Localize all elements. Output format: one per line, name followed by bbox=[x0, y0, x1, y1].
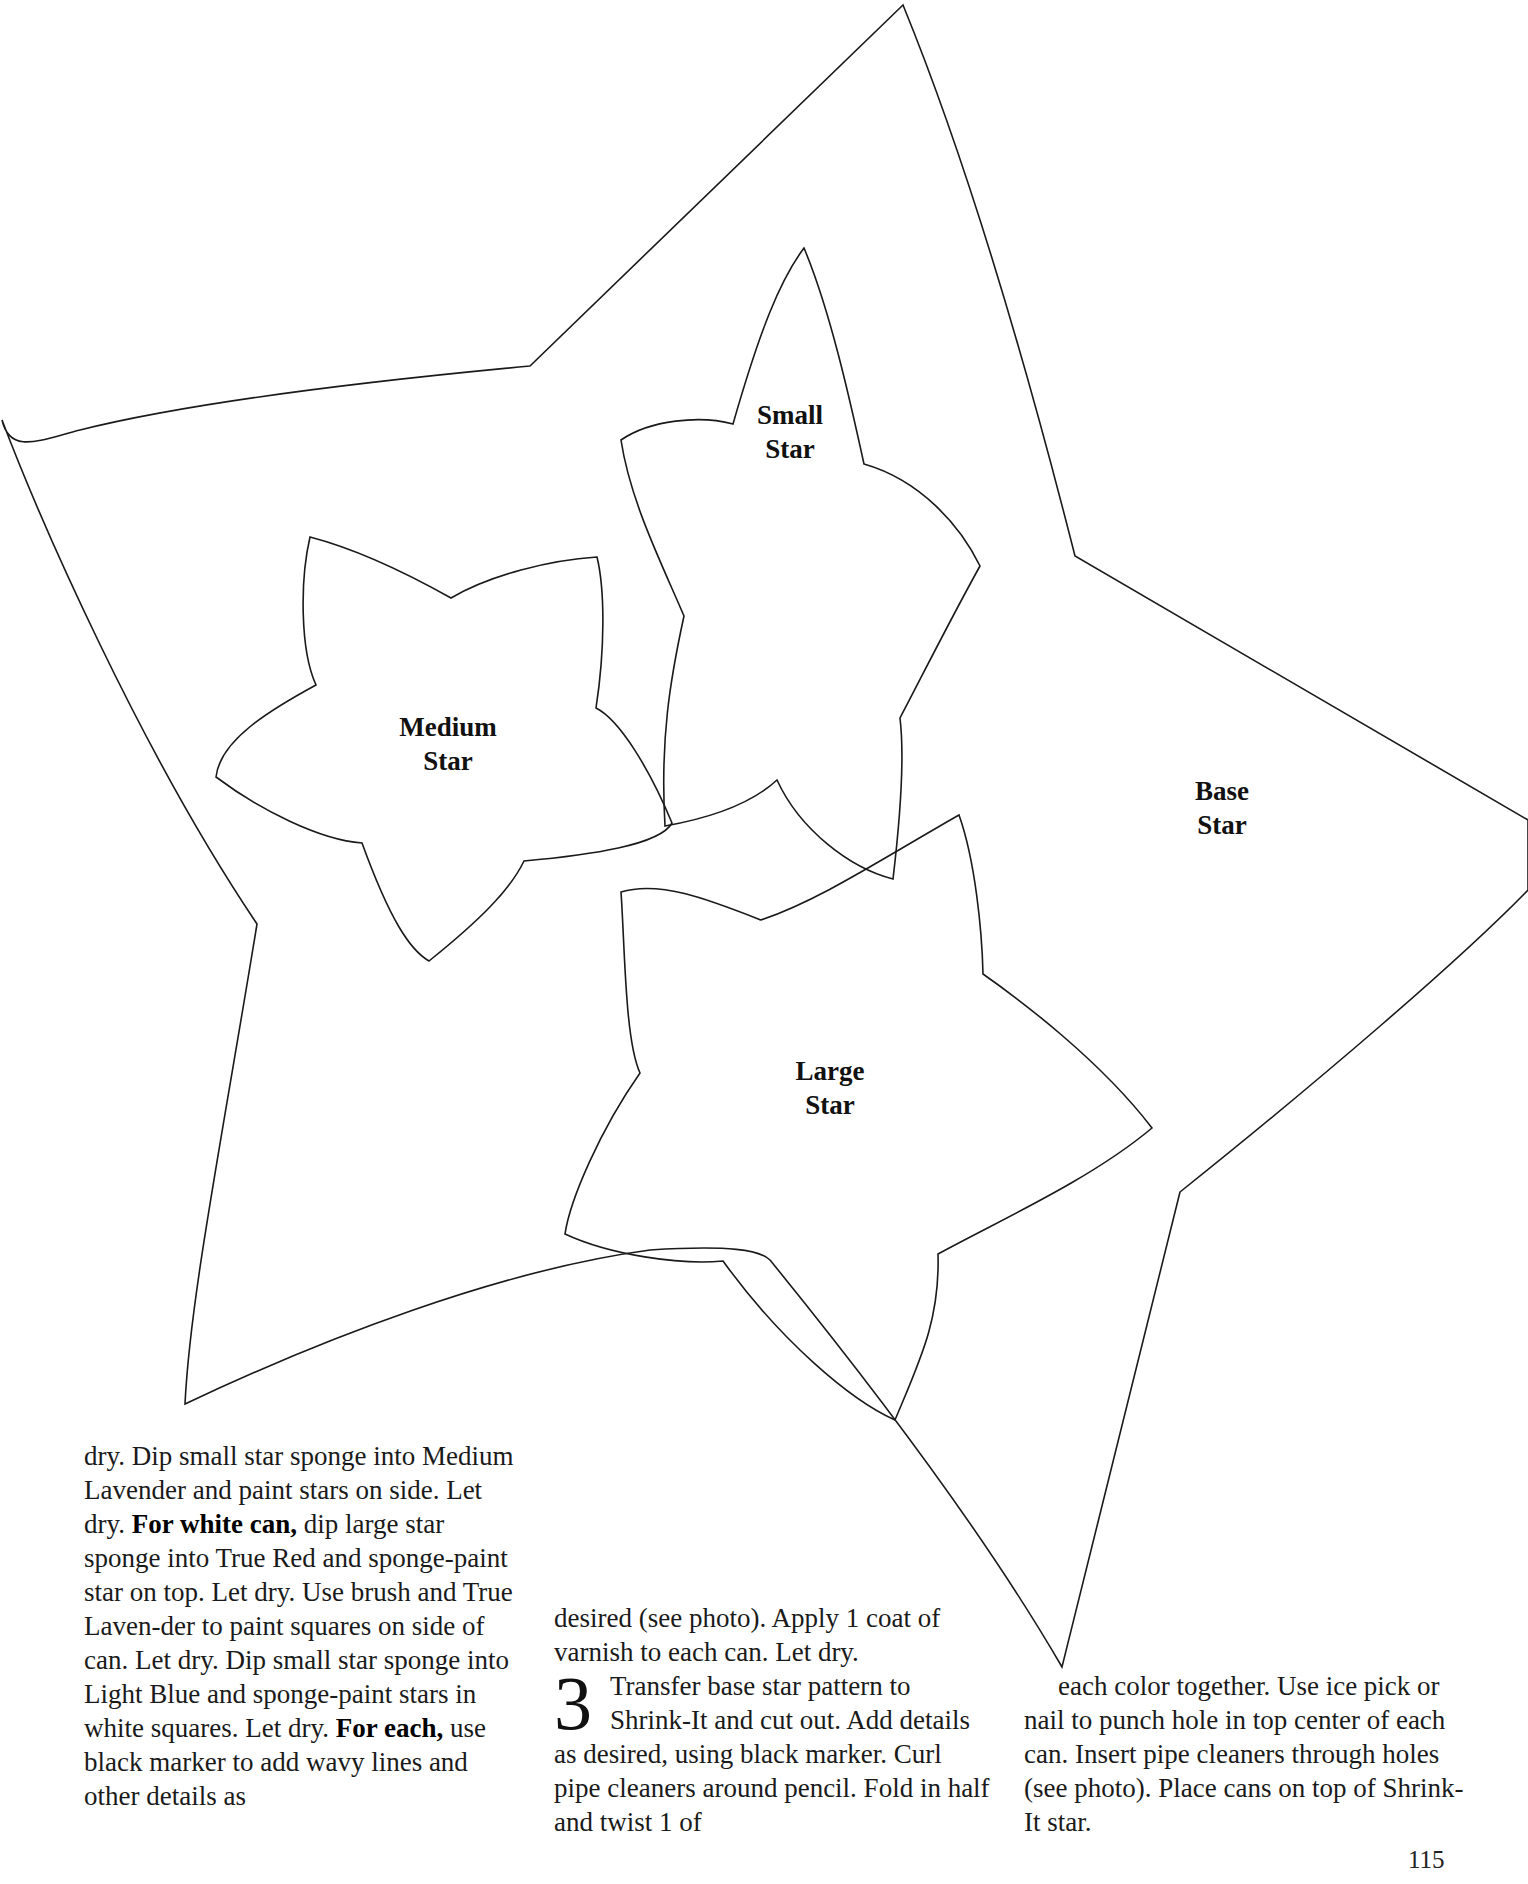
medium-star-label-line1: Medium bbox=[378, 710, 518, 744]
base-star-label-line2: Star bbox=[1172, 808, 1272, 842]
instructions-column-3: each color together. Use ice pick or nai… bbox=[1024, 1669, 1474, 1839]
instructions-column-2: desired (see photo). Apply 1 coat of var… bbox=[554, 1601, 994, 1839]
small-star-outline bbox=[621, 248, 980, 879]
large-star-label-line1: Large bbox=[780, 1054, 880, 1088]
small-star-label-line1: Small bbox=[740, 398, 840, 432]
step-3-paragraph: 3Transfer base star pattern to Shrink-It… bbox=[554, 1669, 994, 1839]
bold-lead-white-can: For white can, bbox=[132, 1509, 297, 1539]
medium-star-label-line2: Star bbox=[378, 744, 518, 778]
bold-lead-for-each: For each, bbox=[336, 1713, 443, 1743]
instructions-paragraph: desired (see photo). Apply 1 coat of var… bbox=[554, 1601, 994, 1669]
large-star-label-line2: Star bbox=[780, 1088, 880, 1122]
medium-star-label: Medium Star bbox=[378, 710, 518, 778]
base-star-label-line1: Base bbox=[1172, 774, 1272, 808]
text-run: Transfer base star pattern to Shrink-It … bbox=[554, 1671, 990, 1837]
step-number: 3 bbox=[554, 1671, 592, 1735]
page-number: 115 bbox=[1408, 1846, 1445, 1874]
base-star-outline bbox=[2, 5, 1528, 1667]
instructions-paragraph: each color together. Use ice pick or nai… bbox=[1024, 1669, 1474, 1839]
base-star-label: Base Star bbox=[1172, 774, 1272, 842]
instructions-paragraph: dry. Dip small star sponge into Medium L… bbox=[84, 1439, 524, 1813]
instructions-column-1: dry. Dip small star sponge into Medium L… bbox=[84, 1439, 524, 1813]
large-star-label: Large Star bbox=[780, 1054, 880, 1122]
text-run: dip large star sponge into True Red and … bbox=[84, 1509, 513, 1743]
small-star-label: Small Star bbox=[740, 398, 840, 466]
small-star-label-line2: Star bbox=[740, 432, 840, 466]
